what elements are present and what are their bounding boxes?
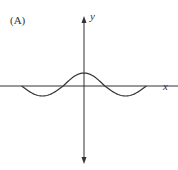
y-axis-arrow-up — [82, 16, 87, 23]
panel-label: (A) — [10, 14, 26, 27]
x-axis-label: x — [162, 80, 168, 92]
y-axis-arrow-down — [82, 157, 87, 164]
y-axis-label: y — [89, 10, 95, 22]
chart: (A) x y — [0, 0, 178, 170]
